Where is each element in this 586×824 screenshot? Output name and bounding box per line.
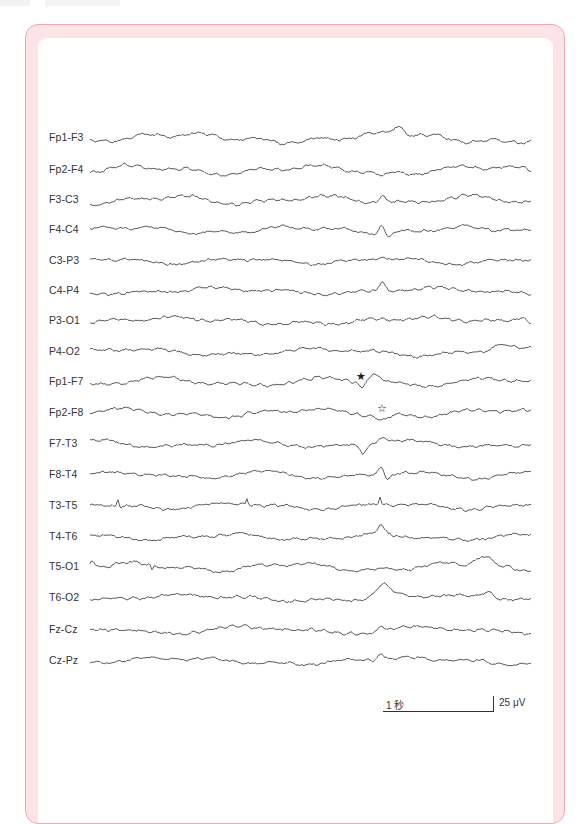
channel-label: Fp1-F3 — [49, 131, 83, 143]
eeg-trace — [90, 194, 531, 206]
channel-label: Cz-Pz — [49, 654, 78, 666]
time-scale-bar — [383, 711, 494, 712]
amplitude-scale-label: 25 μV — [499, 697, 525, 708]
eeg-trace — [90, 625, 531, 636]
outline-star-icon: ☆ — [377, 403, 387, 414]
eeg-trace — [90, 282, 531, 296]
eeg-trace — [90, 654, 531, 666]
eeg-trace — [90, 583, 531, 603]
channel-label: T5-O1 — [49, 560, 79, 572]
channel-label: F4-C4 — [49, 223, 79, 235]
eeg-trace — [90, 407, 531, 420]
channel-label: Fp2-F4 — [49, 163, 83, 175]
channel-label: T3-T5 — [49, 499, 78, 511]
eeg-trace — [90, 163, 531, 176]
channel-label: F7-T3 — [49, 437, 78, 449]
filled-star-icon: ★ — [356, 371, 366, 382]
channel-label: Fp2-F8 — [49, 406, 83, 418]
eeg-trace — [90, 468, 531, 481]
eeg-trace — [90, 315, 531, 326]
channel-label: P4-O2 — [49, 345, 80, 357]
eeg-trace — [90, 126, 531, 145]
channel-label: F8-T4 — [49, 468, 78, 480]
eeg-trace — [90, 497, 531, 511]
eeg-trace — [90, 345, 531, 359]
eeg-trace — [90, 525, 531, 542]
channel-label: Fp1-F7 — [49, 375, 83, 387]
eeg-trace — [90, 374, 531, 388]
eeg-trace — [90, 438, 531, 455]
channel-label: P3-O1 — [49, 314, 80, 326]
amplitude-scale-bar — [493, 696, 494, 712]
eeg-trace — [90, 556, 531, 572]
time-scale-label: 1 秒 — [386, 697, 404, 712]
channel-label: C3-P3 — [49, 254, 79, 266]
channel-label: T6-O2 — [49, 591, 79, 603]
eeg-trace — [90, 225, 531, 237]
channel-label: T4-T6 — [49, 530, 78, 542]
channel-label: Fz-Cz — [49, 623, 78, 635]
channel-label: F3-C3 — [49, 193, 79, 205]
eeg-trace — [90, 257, 531, 265]
channel-label: C4-P4 — [49, 284, 79, 296]
